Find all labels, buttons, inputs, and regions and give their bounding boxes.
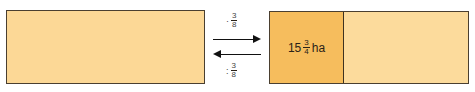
whole-area-box [6,10,205,84]
arrow-right-icon [213,39,259,40]
remaining-part [344,12,468,83]
arrowhead-right-icon [253,35,261,43]
arrow-left-icon [215,54,261,55]
multiply-operator-label: · 3 8 [226,12,239,29]
multiply-symbol: · [226,16,229,26]
area-fraction: 3 4 [303,39,309,56]
divide-symbol: : [226,66,229,76]
shaded-part: 15 3 4 ha [270,12,344,83]
operator-fraction: 3 8 [231,12,237,29]
partitioned-area-box: 15 3 4 ha [269,11,469,84]
operator-fraction: 3 8 [231,62,237,79]
divide-operator-label: : 3 8 [226,62,239,79]
area-value: 15 3 4 ha [288,39,325,56]
arrowhead-left-icon [213,50,221,58]
